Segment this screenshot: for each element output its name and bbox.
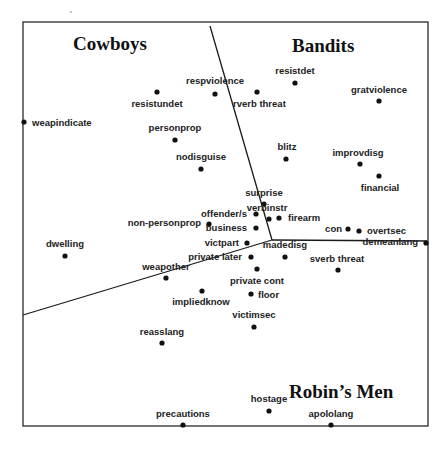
point-label: private later [188,251,242,262]
point-marker-icon [244,240,249,245]
point-marker-icon [253,225,258,230]
point-marker-icon [376,98,381,103]
point-label: overtsec [367,225,406,236]
point-marker-icon [282,254,287,259]
point-marker-icon [357,161,362,166]
point-gratviolence: gratviolence [351,84,407,104]
point-marker-icon [248,291,253,296]
point-madedisg: madedisg [263,239,308,260]
point-label: blitz [278,141,297,152]
point-dwelling: dwelling [46,238,84,259]
point-marker-icon [335,267,340,272]
point-victpart: victpart [205,237,250,248]
point-label: resistdet [275,65,315,76]
point-marker-icon [356,228,361,233]
point-label: gratviolence [351,84,407,95]
point-label: dwelling [46,238,84,249]
point-label: private cont [230,275,285,286]
point-reasslang: reasslang [140,326,185,346]
region-label-robins-men: Robin’s Men [289,381,394,402]
point-marker-icon [328,422,333,427]
point-label: floor [258,289,279,300]
point-label: madedisg [263,239,308,250]
point-marker-icon [254,266,259,271]
point-marker-icon [266,408,271,413]
point-label: firearm [288,212,320,223]
point-label: victpart [205,237,240,248]
point-rverb-threat: rverb threat [233,89,287,109]
point-marker-icon [283,156,288,161]
point-label: improvdisg [332,147,383,158]
point-label: impliedknow [172,296,230,307]
point-business: business [206,222,259,233]
point-marker-icon [248,254,253,259]
point-label: precautions [156,408,210,419]
point-marker-icon [251,324,256,329]
point-nodisguise: nodisguise [176,151,226,172]
region-label-bandits: Bandits [292,35,354,56]
point-personprop: personprop [149,122,202,143]
point-victimsec: victimsec [232,309,275,330]
point-label: con [325,223,342,234]
point-label: surprise [245,187,283,198]
point-marker-icon [180,422,185,427]
point-label: sverb threat [310,253,365,264]
point-label: offender/s [201,208,247,219]
partition-scatter-diagram: CowboysBanditsRobin’s Men resistundetres… [0,0,445,452]
point-overtsec: overtsec [356,225,406,236]
point-label: non-personprop [128,217,202,228]
point-label: weapindicate [31,117,92,128]
region-dividers [23,26,427,315]
point-label: victimsec [232,309,275,320]
point-marker-icon [62,253,67,258]
point-marker-icon [198,166,203,171]
point-label: apololang [309,408,354,419]
point-resistundet: resistundet [131,89,183,109]
point-label: weapother [141,261,190,272]
point-marker-icon [163,275,168,280]
point-marker-icon [345,226,350,231]
point-marker-icon [172,137,177,142]
point-marker-icon [423,240,428,245]
data-points: resistundetrespviolencerverb threatresis… [21,65,428,428]
point-precautions: precautions [156,408,210,428]
point-label: nodisguise [176,151,226,162]
point-hostage: hostage [251,393,287,414]
point-improvdisg: improvdisg [332,147,383,167]
point-marker-icon [276,215,281,220]
point-impliedknow: impliedknow [172,288,230,307]
point-financial: financial [361,173,400,193]
point-marker-icon [21,119,26,124]
point-label: hostage [251,393,287,404]
point-non-personprop: non-personprop [128,217,212,228]
point-weapindicate: weapindicate [21,117,91,128]
point-blitz: blitz [278,141,297,162]
point-label: rverb threat [233,98,287,109]
point-label: business [206,222,247,233]
point-resistdet: resistdet [275,65,315,86]
point-label: financial [361,182,400,193]
point-label: respviolence [186,75,244,86]
point-marker-icon [292,80,297,85]
point-con: con [325,223,350,234]
point-label: reasslang [140,326,185,337]
point-marker-icon [159,340,164,345]
point-label: verbinstr [247,202,288,213]
point-firearm: firearm [276,212,320,223]
point-apololang: apololang [309,408,354,428]
scan-speck [70,11,72,13]
region-label-cowboys: Cowboys [73,33,147,54]
point-private-cont: private cont [230,266,285,286]
point-floor: floor [248,289,279,300]
point-private-later: private later [188,251,253,262]
point-sverb-threat: sverb threat [310,253,365,273]
point-marker-icon [376,173,381,178]
point-respviolence: respviolence [186,75,244,97]
point-marker-icon [154,89,159,94]
point-label: demeanlang [363,236,419,247]
point-label: personprop [149,122,202,133]
point-marker-icon [253,211,258,216]
point-marker-icon [212,91,217,96]
point-marker-icon [199,288,204,293]
point-label: resistundet [131,98,183,109]
